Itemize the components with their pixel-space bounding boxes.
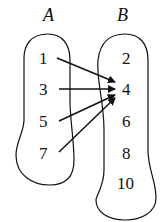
set-a-element: 3 <box>39 80 48 99</box>
mapping-diagram: A B 1 3 5 7 2 4 6 8 10 <box>0 0 167 222</box>
set-b-title: B <box>117 5 128 25</box>
arrow-5-to-4 <box>59 95 115 121</box>
set-b-element: 10 <box>117 174 134 193</box>
set-a-element: 7 <box>39 144 48 163</box>
set-a-element: 1 <box>39 49 48 68</box>
set-b-element: 8 <box>122 144 131 163</box>
set-a-element: 5 <box>39 112 48 131</box>
arrow-1-to-4 <box>57 58 115 82</box>
set-b-element: 2 <box>122 49 131 68</box>
set-b-element: 4 <box>122 80 131 99</box>
set-a-title: A <box>42 5 55 25</box>
set-b-element: 6 <box>122 112 131 131</box>
arrow-7-to-4 <box>59 98 115 152</box>
